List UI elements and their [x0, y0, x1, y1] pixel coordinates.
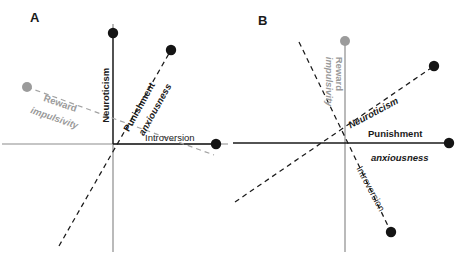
panel-b-plot — [231, 0, 463, 257]
panel-b-punishment-anxiousness-dot — [444, 138, 454, 148]
panel-a: A Neuroticism Introversion Punishment an… — [0, 0, 232, 257]
panel-b: B Reward impulsivity Punishment anxiousn… — [231, 0, 463, 257]
panel-b-introversion-dot — [386, 227, 396, 237]
panel-a-introversion-dot — [211, 139, 221, 149]
panel-b-punishment-label: Punishment — [368, 129, 422, 139]
panel-a-punishment-anxiousness-dot — [166, 45, 176, 55]
panel-a-punishment-anxiousness-axis — [59, 50, 171, 246]
panel-a-introversion-label: Introversion — [145, 133, 195, 143]
panel-b-anxiousness-label: anxiousness — [371, 153, 429, 163]
panel-a-neuroticism-dot — [108, 28, 118, 38]
panel-a-plot — [0, 0, 232, 257]
panel-a-neuroticism-label: Neuroticism — [101, 68, 111, 123]
panel-a-reward-impulsivity-dot — [22, 82, 32, 92]
panel-b-reward-label: Reward — [334, 57, 344, 91]
figure-canvas: A Neuroticism Introversion Punishment an… — [0, 0, 463, 257]
panel-b-reward-impulsivity-dot — [340, 36, 350, 46]
panel-b-neuroticism-dot — [429, 61, 439, 71]
panel-b-impulsivity-label: impulsivity — [324, 57, 334, 107]
